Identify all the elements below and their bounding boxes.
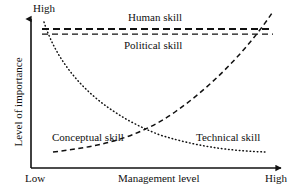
human-skill-label: Human skill xyxy=(128,11,182,23)
chart-plot-area xyxy=(0,0,301,193)
y-axis-title: Level of importance xyxy=(12,47,24,157)
conceptual-skill-label: Conceptual skill xyxy=(52,131,124,143)
technical-skill-label: Technical skill xyxy=(196,131,260,143)
skills-importance-chart: High Level of importance Low Management … xyxy=(0,0,301,193)
x-axis-title: Management level xyxy=(118,172,200,184)
x-axis-left-tick-label: Low xyxy=(25,172,45,184)
political-skill-label: Political skill xyxy=(124,39,182,51)
x-axis-right-tick-label: High xyxy=(265,172,287,184)
y-axis-top-tick-label: High xyxy=(33,2,55,14)
